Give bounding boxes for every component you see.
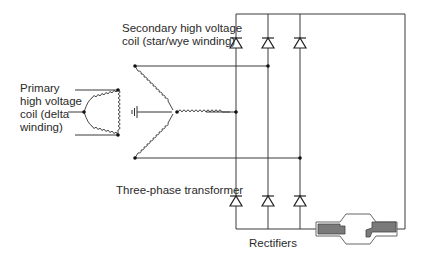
primary-delta-coil [84,90,120,135]
ground-icon [132,106,172,118]
label-line: winding) [20,121,82,134]
rectifier-diodes-bottom [230,196,306,206]
label-line: high voltage [20,95,82,108]
label-line: Primary [20,82,82,95]
primary-coil-label: Primary high voltage coil (delta winding… [20,82,82,134]
label-line: Secondary high voltage [122,22,242,35]
rectifiers-label: Rectifiers [249,237,297,250]
secondary-coil-label: Secondary high voltage coil (star/wye wi… [122,22,242,48]
label-line: coil (delta [20,108,82,121]
x-ray-tube [316,214,397,244]
transformer-label: Three-phase transformer [116,184,243,197]
label-line: coil (star/wye winding) [122,35,242,48]
